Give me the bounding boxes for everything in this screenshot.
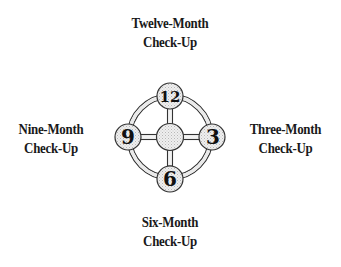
node-number: 6 (163, 167, 177, 191)
node-3: 3 (199, 124, 225, 150)
node-6: 6 (157, 166, 183, 192)
node-number: 3 (206, 125, 220, 149)
node-number: 12 (160, 88, 181, 106)
clock-wheel-diagram: 12 3 6 9 (0, 0, 341, 267)
node-12: 12 (157, 83, 183, 109)
node-number: 9 (121, 125, 135, 149)
center-hub (157, 124, 184, 151)
node-9: 9 (115, 124, 141, 150)
